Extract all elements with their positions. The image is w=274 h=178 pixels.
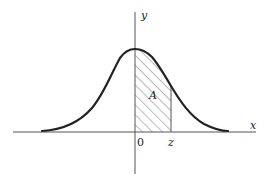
shaded-area-region <box>135 40 175 135</box>
z-label: z <box>167 136 174 149</box>
origin-label: 0 <box>137 136 144 149</box>
normal-distribution-diagram: y x 0 z A <box>0 0 274 178</box>
diagram-canvas: y x 0 z A <box>0 0 274 178</box>
x-axis-label: x <box>250 119 257 132</box>
area-label: A <box>148 89 157 102</box>
y-axis-label: y <box>140 9 148 22</box>
